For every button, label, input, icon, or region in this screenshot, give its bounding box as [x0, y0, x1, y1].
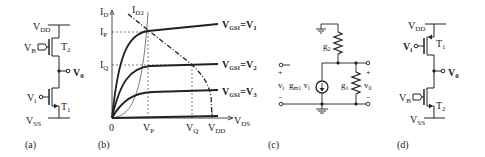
- vb-label-d: VB: [399, 92, 411, 105]
- vq-label: VQ: [186, 122, 198, 135]
- g1-label: g1: [341, 80, 349, 91]
- y-axis-label: ID: [100, 6, 108, 19]
- panel-b-labels: ID ID2 IP IQ 0 VP VQ VDD VDS VGS1=V1 VGS…: [98, 4, 257, 151]
- iq-label: IQ: [100, 59, 108, 72]
- vb-label-a: VB: [24, 42, 36, 55]
- ip-label: IP: [100, 26, 107, 39]
- origin-label: 0: [109, 122, 114, 133]
- vss-label-a: VSS: [26, 115, 41, 128]
- panel-label-b: (b): [98, 139, 110, 151]
- vo-minus-sign: −: [366, 93, 371, 102]
- t1-label-a: T1: [61, 101, 71, 114]
- vi-plus-sign: +: [278, 68, 283, 77]
- t2-label-a: T2: [61, 41, 71, 54]
- panel-label-c: (c): [268, 139, 279, 151]
- vo-label-a: V0: [73, 67, 84, 80]
- g2-label: g2: [323, 41, 331, 52]
- panel-a-labels: VDD T2 VB V0 Vi T1 VSS (a): [24, 21, 84, 151]
- vo-plus-sign: +: [366, 68, 371, 77]
- panel-c-circuit: [279, 24, 370, 113]
- vdd-label-b: VDD: [208, 122, 225, 135]
- curve-label-v2: VGS1=V2: [222, 59, 257, 72]
- vdd-label-d: VDD: [408, 20, 425, 33]
- vi-label-d: Vi: [403, 41, 412, 54]
- panel-label-d: (d): [397, 139, 409, 151]
- vss-label-d: VSS: [410, 114, 425, 127]
- vdd-label-a: VDD: [33, 21, 50, 34]
- vo-label-c: v0: [364, 80, 372, 91]
- gm-source-label: gm1 vi: [289, 80, 310, 91]
- panel-b-chart: [110, 10, 233, 120]
- panel-label-a: (a): [25, 139, 36, 151]
- curve-label-v3: VGS1=V3: [222, 86, 257, 99]
- t2-label-d: T2: [436, 100, 446, 113]
- vi-label-a: Vi: [27, 92, 36, 105]
- vo-label-d: V0: [448, 67, 459, 80]
- id2-label: ID2: [132, 4, 144, 17]
- t1-label-d: T1: [436, 38, 446, 51]
- curve-label-v1: VGS1=V1: [222, 19, 257, 32]
- figure-canvas: VDD T2 VB V0 Vi T1 VSS (a) ID: [0, 0, 485, 157]
- vp-label: VP: [143, 122, 154, 135]
- vi-minus-sign: −: [278, 93, 283, 102]
- x-axis-label: VDS: [234, 115, 250, 128]
- vi-label-c: vi: [278, 80, 285, 91]
- panel-d-labels: VDD T1 Vi V0 VB T2 VSS (d): [397, 20, 459, 151]
